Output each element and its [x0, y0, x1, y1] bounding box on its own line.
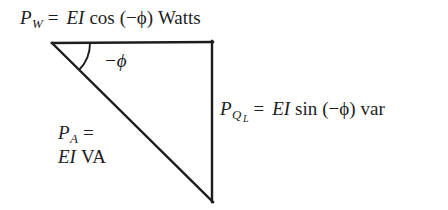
reactive-power-sub-subscript: L	[241, 113, 248, 124]
real-power-symbol: P	[20, 7, 32, 28]
real-power-subscript: W	[32, 16, 43, 31]
reactive-power-unit: var	[356, 98, 385, 119]
apparent-power-line2: EIVA	[58, 146, 106, 168]
angle-label-text: −ϕ	[104, 50, 127, 71]
real-power-side	[52, 42, 213, 43]
real-power-unit: Watts	[153, 7, 201, 28]
real-power-label: PW=EIcos(−ϕ)Watts	[20, 7, 201, 31]
angle-label: −ϕ	[104, 50, 127, 72]
apparent-power-subscript: A	[70, 131, 78, 146]
real-power-function: cos	[84, 7, 114, 28]
real-power-magnitude: EI	[62, 7, 85, 28]
apparent-power-equals: =	[78, 122, 97, 143]
angle-arc	[79, 43, 90, 70]
apparent-power-symbol: P	[58, 122, 70, 143]
apparent-power-label: PA= EIVA	[58, 122, 106, 169]
reactive-power-argument: (−ϕ)	[317, 98, 355, 119]
apparent-power-unit: VA	[76, 146, 106, 167]
real-power-equals: =	[43, 7, 62, 28]
apparent-power-line1: PA=	[58, 122, 106, 146]
reactive-power-equals: =	[249, 98, 268, 119]
reactive-power-label: PQL=EIsin(−ϕ)var	[220, 98, 385, 125]
reactive-power-subscript: QL	[232, 107, 249, 122]
reactive-power-symbol: P	[220, 98, 232, 119]
reactive-power-function: sin	[290, 98, 317, 119]
real-power-argument: (−ϕ)	[115, 7, 153, 28]
apparent-power-magnitude: EI	[58, 146, 76, 167]
power-triangle-figure: PW=EIcos(−ϕ)Watts PQL=EIsin(−ϕ)var PA= E…	[0, 0, 448, 210]
reactive-power-magnitude: EI	[267, 98, 290, 119]
